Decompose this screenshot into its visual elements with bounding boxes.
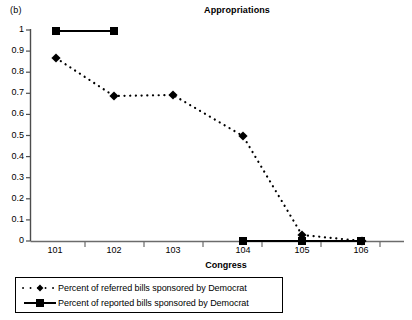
- legend-entry-reported: Percent of reported bills sponsored by D…: [16, 295, 249, 311]
- reported-marker-104: [239, 237, 247, 245]
- reported-marker-101: [52, 27, 60, 35]
- plot-area: 1 0.9 0.8 0.7 0.6 0.5 0.4 0.3 0.2 0.1 0 …: [0, 0, 412, 260]
- chart-figure: (b) Appropriations: [0, 0, 412, 320]
- ytick-label-0-3: 0.3: [0, 173, 24, 182]
- xtick-label-105: 105: [282, 245, 322, 255]
- ytick-label-0-6: 0.6: [0, 109, 24, 118]
- dotted-diamond-key: [22, 281, 58, 295]
- series-reported: [52, 27, 365, 245]
- referred-marker-103: [168, 90, 177, 99]
- legend-label-reported: Percent of reported bills sponsored by D…: [58, 298, 249, 309]
- legend-entry-referred: Percent of referred bills sponsored by D…: [16, 280, 247, 296]
- xtick-label-104: 104: [223, 245, 263, 255]
- ytick-label-0-8: 0.8: [0, 67, 24, 76]
- reported-marker-102: [110, 27, 118, 35]
- ytick-label-0-7: 0.7: [0, 88, 24, 97]
- chart-legend: Percent of referred bills sponsored by D…: [15, 277, 283, 313]
- ytick-label-0: 0: [0, 236, 24, 245]
- series-referred: [51, 53, 366, 245]
- ytick-label-0-1: 0.1: [0, 215, 24, 224]
- referred-marker-102: [109, 91, 118, 100]
- referred-markers: [51, 53, 366, 245]
- legend-label-referred: Percent of referred bills sponsored by D…: [58, 283, 247, 294]
- ytick-label-1: 1: [0, 25, 24, 34]
- ytick-label-0-5: 0.5: [0, 131, 24, 140]
- x-axis-title: Congress: [0, 260, 412, 271]
- plot-svg: [0, 0, 412, 260]
- referred-dotted-line: [56, 58, 362, 241]
- xtick-label-103: 103: [153, 245, 193, 255]
- solid-square-key: [22, 296, 58, 310]
- ytick-label-0-9: 0.9: [0, 46, 24, 55]
- xtick-label-106: 106: [341, 245, 381, 255]
- xtick-label-102: 102: [94, 245, 134, 255]
- ytick-label-0-4: 0.4: [0, 152, 24, 161]
- xtick-label-101: 101: [35, 245, 75, 255]
- referred-marker-104: [238, 131, 247, 140]
- referred-marker-101: [51, 53, 60, 62]
- ytick-label-0-2: 0.2: [0, 194, 24, 203]
